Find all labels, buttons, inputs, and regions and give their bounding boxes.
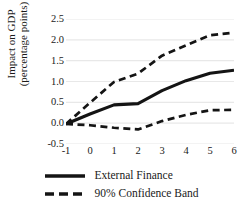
x-axis-tick-label: 4: [176, 146, 196, 157]
plot-svg: [66, 19, 234, 144]
chart-figure: Impact on GDP (percentage points) 2.52.0…: [0, 0, 243, 213]
x-axis-tick-label: 0: [80, 146, 100, 157]
x-axis-tick-label: 1: [104, 146, 124, 157]
chart-legend: External Finance 90% Confidence Band: [0, 170, 243, 200]
legend-swatch-dashed-line-icon: [44, 188, 86, 200]
y-axis-title-line-2: (percentage points): [18, 2, 30, 87]
x-axis-tick-label: -1: [56, 146, 76, 157]
x-axis-tick-label: 5: [200, 146, 220, 157]
y-axis-title: Impact on GDP (percentage points): [2, 0, 34, 108]
y-axis-tick-label: 1.0: [38, 76, 64, 87]
legend-item-confidence-band: 90% Confidence Band: [38, 188, 206, 200]
legend-label-confidence-band: 90% Confidence Band: [95, 188, 199, 200]
y-axis-tick-label: 1.5: [38, 55, 64, 66]
x-axis-tick-label: 3: [152, 146, 172, 157]
y-axis-tick-label: 2.5: [38, 14, 64, 25]
y-axis-tick-labels: 2.52.01.51.00.50.0-0.5: [36, 19, 64, 144]
legend-swatch-solid-line-icon: [44, 170, 86, 182]
y-axis-tick-label: 0.5: [38, 97, 64, 108]
series-line-upper-band: [66, 33, 234, 124]
y-axis-tick-label: 2.0: [38, 35, 64, 46]
legend-item-external-finance: External Finance: [38, 170, 206, 182]
series-line-external-finance: [66, 70, 234, 124]
x-axis-tick-label: 6: [224, 146, 243, 157]
x-axis-tick-labels: -10123456: [66, 146, 234, 162]
legend-label-external-finance: External Finance: [95, 170, 173, 182]
y-axis-tick-label: 0.0: [38, 118, 64, 129]
plot-area: [66, 19, 234, 144]
x-axis-tick-label: 2: [128, 146, 148, 157]
